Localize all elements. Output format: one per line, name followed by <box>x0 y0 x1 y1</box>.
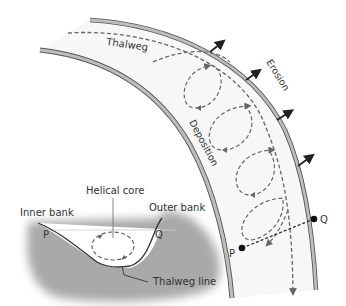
erosion-arrow-icon <box>210 44 220 52</box>
outer-bank-label: Outer bank <box>149 202 205 213</box>
point-q-dot <box>311 216 318 223</box>
section-point-p-label: P <box>43 229 49 240</box>
erosion-arrow-icon <box>298 158 309 166</box>
meander-diagram: P Q Thalweg Erosion Deposition Helical c… <box>0 0 346 306</box>
erosion-label: Erosion <box>264 57 292 92</box>
inner-bank-label: Inner bank <box>20 207 74 218</box>
helical-core-label: Helical core <box>86 185 144 196</box>
section-point-q-label: Q <box>155 229 163 240</box>
cross-section: Helical core Inner bank Outer bank P Q T… <box>20 185 220 302</box>
plan-point-q-label: Q <box>320 214 328 225</box>
erosion-arrow-icon <box>246 73 256 80</box>
thalweg-line-label: Thalweg line <box>152 276 216 287</box>
plan-point-p-label: P <box>229 248 235 259</box>
point-p-dot <box>239 245 246 252</box>
